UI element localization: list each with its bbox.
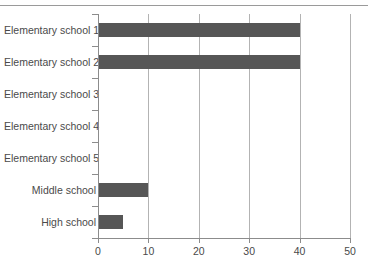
bar[interactable] — [98, 183, 148, 197]
category-tick — [92, 206, 98, 207]
bar-row — [98, 46, 350, 78]
value-tick-label: 10 — [133, 245, 163, 257]
category-label: Elementary school 2 — [4, 56, 96, 68]
bar-row — [98, 142, 350, 174]
category-tick — [92, 46, 98, 47]
plot-area — [98, 14, 350, 238]
value-tick-label: 50 — [335, 245, 365, 257]
gridline-50 — [350, 14, 351, 238]
category-label: Elementary school 3 — [4, 88, 96, 100]
value-tick — [300, 238, 301, 243]
category-axis-labels: Elementary school 1Elementary school 2El… — [0, 14, 96, 238]
value-tick-label: 40 — [285, 245, 315, 257]
category-label: Middle school — [4, 184, 96, 196]
category-label: Elementary school 5 — [4, 152, 96, 164]
value-tick-label: 0 — [83, 245, 113, 257]
category-tick — [92, 78, 98, 79]
bar-row — [98, 110, 350, 142]
value-tick — [249, 238, 250, 243]
category-tick — [92, 14, 98, 15]
bar-row — [98, 78, 350, 110]
bar[interactable] — [98, 55, 300, 69]
value-tick-label: 20 — [184, 245, 214, 257]
top-divider-rule — [0, 5, 368, 6]
category-label: Elementary school 4 — [4, 120, 96, 132]
category-label: Elementary school 1 — [4, 24, 96, 36]
category-axis-line — [98, 14, 99, 238]
value-tick — [199, 238, 200, 243]
bar-row — [98, 174, 350, 206]
value-axis-line — [98, 238, 350, 239]
value-tick — [98, 238, 99, 243]
bar-row — [98, 14, 350, 46]
value-tick-label: 30 — [234, 245, 264, 257]
bar[interactable] — [98, 215, 123, 229]
category-tick — [92, 238, 98, 239]
category-tick — [92, 110, 98, 111]
category-tick — [92, 174, 98, 175]
category-tick — [92, 142, 98, 143]
category-label: High school — [4, 216, 96, 228]
bar-chart: Elementary school 1Elementary school 2El… — [0, 0, 368, 265]
bar-row — [98, 206, 350, 238]
bar[interactable] — [98, 23, 300, 37]
value-tick — [148, 238, 149, 243]
value-tick — [350, 238, 351, 243]
